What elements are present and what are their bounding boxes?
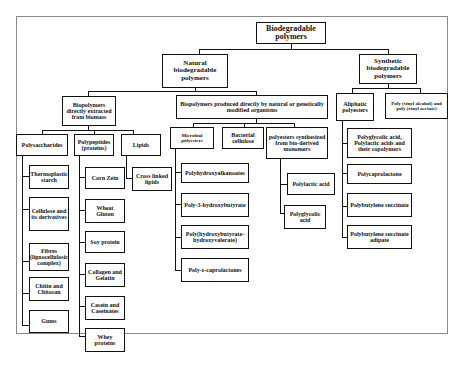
node-pva-pvac: Poly (vinyl alcohol) and poly (vinyl ace… — [385, 93, 448, 119]
node-polyesters-bio-derived-monomers: polyesters synthesized from bio-derived … — [266, 127, 328, 159]
node-biopolymers-extracted-from-biomass: Biopolymers directly extracted from biom… — [62, 96, 116, 126]
node-casein-caseinates: Casein and Caseinates — [85, 296, 125, 320]
node-whey-proteins: Whey proteins — [85, 328, 125, 352]
node-polyhydroxyalkanoates: Polyhydroxyalkanoates — [181, 163, 249, 183]
node-pga-pla-copolymers: Polyglycolic acid, Polylactic acids and … — [347, 128, 412, 158]
node-polysaccharides: Polysaccharides — [16, 134, 68, 156]
node-bacterial-cellulose: Bacterial cellulose — [222, 127, 264, 149]
node-polybutylene-succinate: Polybutylene succinate — [347, 193, 412, 217]
node-poly-3-hydroxybutyrate: Poly-3-hydroxybutyrate — [181, 193, 249, 217]
node-natural-biodegradable-polymers: Natural biodegradable polymers — [162, 54, 228, 88]
node-corn-zein: Corn Zein — [85, 167, 125, 189]
node-wheat-gluten: Wheat Gluten — [85, 199, 125, 223]
node-collagen-gelatin: Collagen and Gelatin — [85, 263, 125, 287]
node-aliphatic-polyesters: Aliphatic polyesters — [336, 93, 374, 121]
node-gums: Gums — [29, 310, 69, 333]
node-polybutylene-succinate-adipate: Polybutylene succinate adipate — [347, 225, 412, 249]
node-biodegradable-polymers: Biodegradable polymers — [256, 22, 326, 44]
node-microbial-polyesters: Microbial polyesters — [170, 127, 214, 149]
node-cross-linked-lipids: Cross linked lipids — [132, 167, 172, 191]
node-soy-protein: Soy protein — [85, 231, 125, 253]
node-synthetic-biodegradable-polymers: Synthetic biodegradable polymers — [359, 54, 417, 84]
node-poly-hb-hv: Poly(hydroxybutyrate-hydroxyvalerate) — [181, 225, 249, 249]
node-poly-e-caprolactones: Poly-ε-caprolactones — [181, 258, 249, 282]
node-lipids: Lipids — [121, 134, 161, 156]
node-polylactic-acid: Polylactic acid — [287, 173, 335, 195]
node-thermoplastic-starch: Thermoplastic starch — [29, 165, 69, 189]
node-cellulose-derivatives: Cellulose and its derivatives — [29, 197, 69, 231]
node-chitin-chitosan: Chitin and Chitosan — [29, 277, 69, 301]
node-biopolymers-produced-by-organisms: Biopolymers produced directly by natural… — [176, 95, 328, 119]
node-fibres-lignocellulosic: Fibres (lignocellulosic complex) — [29, 243, 69, 271]
node-polyglycolic-acid: Polyglycolic acid — [284, 205, 326, 229]
node-polycaprolactone: Polycaprolactone — [347, 164, 412, 184]
node-polypeptides: Polypeptides (proteins) — [74, 134, 114, 156]
